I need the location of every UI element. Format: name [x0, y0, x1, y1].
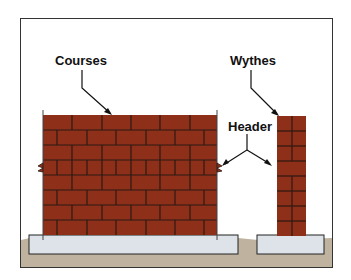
label-header: Header [228, 119, 272, 134]
brick-column [277, 116, 306, 236]
arrowhead-header-left [222, 159, 229, 166]
wall-footing [29, 235, 238, 254]
arrowhead-header-right [264, 159, 272, 166]
brick-diagram [0, 0, 351, 280]
label-wythes: Wythes [230, 53, 276, 68]
label-courses: Courses [55, 53, 107, 68]
column-footing [257, 235, 324, 254]
brick-wall [38, 110, 222, 240]
arrowhead-wythes [271, 109, 279, 116]
